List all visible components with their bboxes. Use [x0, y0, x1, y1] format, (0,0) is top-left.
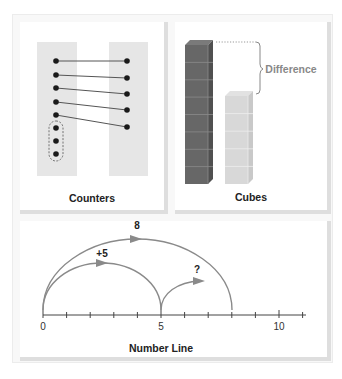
- tick-label-10: 10: [273, 321, 284, 332]
- cubes-caption: Cubes: [235, 191, 267, 203]
- cubes-illustration: [185, 40, 263, 184]
- counters-caption: Counters: [69, 192, 115, 204]
- tall-cube-tower: [185, 40, 213, 184]
- number-line-caption: Number Line: [129, 342, 193, 354]
- tick-label-5: 5: [158, 321, 164, 332]
- jump-label-5: +5: [96, 248, 107, 259]
- counters-illustration: [37, 42, 148, 176]
- number-line-ticks: [43, 310, 303, 318]
- jump-arc-unknown: [161, 281, 200, 310]
- difference-brace: [256, 42, 263, 94]
- diagram-graphics: [0, 0, 342, 379]
- jump-arc-5: [43, 263, 161, 310]
- jump-label-unknown: ?: [194, 264, 200, 275]
- arrow-head-unknown: [193, 277, 205, 285]
- short-cube-tower: [225, 91, 253, 184]
- arrow-head-8: [130, 235, 142, 243]
- difference-label: Difference: [265, 63, 316, 75]
- number-line-illustration: [43, 235, 306, 318]
- jump-label-8: 8: [134, 220, 140, 231]
- tick-label-0: 0: [40, 321, 46, 332]
- jump-arc-8: [43, 239, 232, 310]
- arrow-head-5: [96, 259, 108, 267]
